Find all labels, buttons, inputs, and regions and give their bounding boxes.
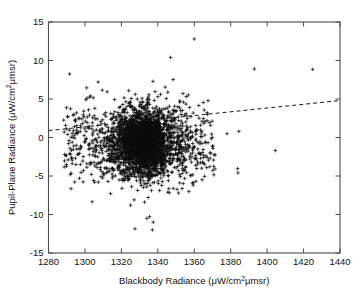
x-tick-label: 1440 [329,256,350,267]
y-tick-label: -15 [30,247,44,258]
y-tick-label: 10 [33,55,44,66]
y-axis-title: Pupil-Plane Radiance (μW/cm2μmsr) [5,60,16,215]
x-tick-label: 1400 [257,256,278,267]
x-axis-title: Blackbody Radiance (μW/cm2μmsr) [119,275,269,286]
scatter-plot-figure: 128013001320134013601380140014201440 -15… [0,0,363,299]
y-tick-label: 5 [38,93,43,104]
chart-canvas: 128013001320134013601380140014201440 -15… [0,0,363,299]
x-tick-label: 1420 [293,256,314,267]
y-tick-label: 0 [38,132,43,143]
x-tick-label: 1360 [184,256,205,267]
plot-background [49,22,341,253]
x-tick-label: 1380 [220,256,241,267]
y-tick-label: -10 [30,209,44,220]
x-tick-label: 1340 [147,256,168,267]
x-tick-label: 1320 [111,256,132,267]
y-tick-label: -5 [35,170,43,181]
x-axis-title-tail: μmsr) [245,275,269,286]
y-tick-label: 15 [33,16,44,27]
x-tick-label: 1300 [74,256,95,267]
x-axis-title-main: Blackbody Radiance (μW/cm [119,275,241,286]
y-axis-title-main: Pupil-Plane Radiance (μW/cm [6,88,17,215]
plot-area [49,22,341,253]
y-axis-title-tail: μmsr) [6,60,17,84]
